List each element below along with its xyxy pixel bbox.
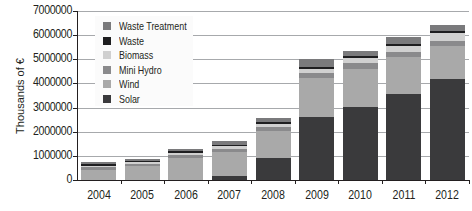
bar-segment-waste-treatment <box>386 37 421 44</box>
y-tick-label: 5000000 <box>13 51 73 65</box>
y-tick-label: 7000000 <box>13 3 73 17</box>
x-tick-label: 2007 <box>208 188 251 202</box>
bar-2007 <box>212 141 247 180</box>
y-tick-label: 3000000 <box>13 100 73 114</box>
x-tick-mark <box>338 180 339 184</box>
legend-label: Wind <box>119 78 139 90</box>
legend-swatch-icon <box>103 22 111 30</box>
bar-segment-waste-treatment <box>299 59 334 67</box>
legend-item-solar: Solar <box>103 92 144 106</box>
bar-2006 <box>168 149 203 180</box>
legend-swatch-icon <box>103 51 111 59</box>
x-tick-mark <box>164 180 165 184</box>
bar-2009 <box>299 59 334 180</box>
y-tick-label: 4000000 <box>13 75 73 89</box>
y-tick-label: 6000000 <box>13 27 73 41</box>
bar-segment-wind <box>299 78 334 117</box>
legend: Waste TreatmentWasteBiomassMini HydroWin… <box>95 16 193 106</box>
legend-swatch-icon <box>103 37 111 45</box>
y-tick-label: 2000000 <box>13 124 73 138</box>
gridline <box>77 11 469 12</box>
bar-2004 <box>81 162 116 180</box>
bar-segment-solar <box>386 94 421 180</box>
bar-segment-wind <box>386 57 421 94</box>
legend-label: Mini Hydro <box>119 64 162 76</box>
y-axis-line <box>77 11 78 181</box>
bar-segment-wind <box>343 69 378 107</box>
x-tick-label: 2012 <box>426 188 469 202</box>
legend-label: Waste <box>119 35 144 47</box>
legend-item-waste: Waste <box>103 34 148 48</box>
bar-segment-wind <box>212 152 247 176</box>
bar-segment-biomass <box>430 33 465 41</box>
bar-2012 <box>430 25 465 180</box>
x-tick-mark <box>469 180 470 184</box>
x-tick-mark <box>208 180 209 184</box>
bar-segment-solar <box>343 107 378 180</box>
bar-2010 <box>343 51 378 180</box>
bar-segment-solar <box>299 117 334 180</box>
legend-item-wind: Wind <box>103 77 143 91</box>
x-tick-label: 2011 <box>382 188 425 202</box>
y-tick-label: 1000000 <box>13 148 73 162</box>
legend-item-waste-treatment: Waste Treatment <box>103 19 199 33</box>
bar-segment-wind <box>125 166 160 180</box>
bar-segment-solar <box>256 158 291 180</box>
x-tick-label: 2006 <box>165 188 208 202</box>
legend-swatch-icon <box>103 66 111 74</box>
x-tick-mark <box>251 180 252 184</box>
bar-2011 <box>386 37 421 180</box>
bar-segment-wind <box>256 131 291 158</box>
x-tick-label: 2008 <box>252 188 295 202</box>
bar-2005 <box>125 159 160 180</box>
x-tick-mark <box>425 180 426 184</box>
legend-label: Solar <box>119 93 140 105</box>
bar-2008 <box>256 118 291 180</box>
bar-segment-solar <box>430 79 465 180</box>
legend-label: Waste Treatment <box>119 20 187 32</box>
x-tick-mark <box>382 180 383 184</box>
bar-segment-wind <box>81 170 116 180</box>
legend-item-mini-hydro: Mini Hydro <box>103 63 169 77</box>
x-axis-line <box>77 180 469 181</box>
legend-label: Biomass <box>119 49 153 61</box>
legend-swatch-icon <box>103 95 111 103</box>
x-tick-label: 2009 <box>295 188 338 202</box>
bar-segment-wind <box>430 46 465 78</box>
x-tick-mark <box>121 180 122 184</box>
x-tick-label: 2005 <box>121 188 164 202</box>
x-tick-label: 2004 <box>78 188 121 202</box>
legend-item-biomass: Biomass <box>103 48 159 62</box>
legend-swatch-icon <box>103 80 111 88</box>
x-tick-label: 2010 <box>339 188 382 202</box>
y-tick-label: 0 <box>13 172 73 186</box>
bar-segment-wind <box>168 158 203 180</box>
x-tick-mark <box>295 180 296 184</box>
